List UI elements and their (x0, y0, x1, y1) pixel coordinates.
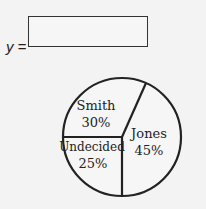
slice-label-jones: Jones (129, 126, 167, 141)
slice-value-jones: 45% (135, 143, 164, 158)
slice-value-smith: 30% (82, 115, 111, 130)
slice-value-undecided: 25% (79, 156, 108, 171)
pie-chart: Smith 30% Jones 45% Undecided 25% (0, 0, 206, 209)
slice-label-smith: Smith (77, 98, 117, 113)
slice-label-undecided: Undecided (59, 140, 125, 154)
